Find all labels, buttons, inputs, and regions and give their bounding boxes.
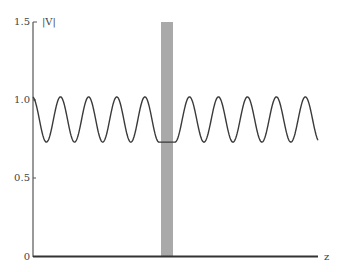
y-tick-label-0: 0 (24, 251, 30, 262)
x-axis-label: z (324, 251, 329, 262)
shaded-band (161, 22, 173, 257)
y-tick-label-1.5: 1.5 (14, 16, 30, 27)
voltage-magnitude-curve (33, 97, 318, 142)
y-tick-label-1.0: 1.0 (14, 94, 30, 105)
standing-wave-chart: 1.5 1.0 0.5 0 |V| z (0, 0, 345, 272)
y-tick-label-0.5: 0.5 (14, 172, 30, 183)
y-axis-label: |V| (42, 16, 56, 28)
